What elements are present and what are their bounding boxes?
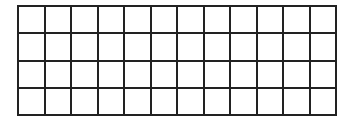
grid-cell	[125, 62, 152, 89]
grid-cell	[284, 7, 311, 34]
grid-cell	[46, 89, 73, 116]
grid-cell	[125, 89, 152, 116]
grid-cell	[258, 89, 285, 116]
grid-cell	[284, 89, 311, 116]
grid-cell	[152, 62, 179, 89]
grid-cell	[99, 7, 126, 34]
grid-cell	[125, 7, 152, 34]
grid-cell	[205, 34, 232, 61]
grid-cell	[258, 34, 285, 61]
grid-cell	[72, 62, 99, 89]
grid-cell	[152, 34, 179, 61]
grid-cell	[19, 34, 46, 61]
grid-cell	[46, 62, 73, 89]
grid-cell	[284, 62, 311, 89]
grid-cell	[46, 34, 73, 61]
grid-cell	[19, 62, 46, 89]
grid-cell	[284, 34, 311, 61]
grid-cell	[311, 62, 338, 89]
grid-cell	[205, 89, 232, 116]
grid-cell	[231, 34, 258, 61]
grid-cell	[178, 34, 205, 61]
grid-cell	[258, 62, 285, 89]
grid-cell	[46, 7, 73, 34]
grid-cell	[311, 34, 338, 61]
grid-cell	[311, 89, 338, 116]
grid-cell	[99, 34, 126, 61]
grid-cell	[99, 62, 126, 89]
grid-cell	[178, 89, 205, 116]
grid-cell	[152, 7, 179, 34]
grid-cell	[205, 62, 232, 89]
grid-cell	[152, 89, 179, 116]
grid-cell	[205, 7, 232, 34]
empty-grid	[17, 5, 337, 116]
grid-cell	[72, 89, 99, 116]
grid-cell	[19, 89, 46, 116]
grid-cell	[178, 62, 205, 89]
grid-cell	[125, 34, 152, 61]
grid-cell	[99, 89, 126, 116]
grid-cell	[178, 7, 205, 34]
grid-cell	[258, 7, 285, 34]
grid-cell	[72, 7, 99, 34]
grid-cell	[231, 62, 258, 89]
grid-cell	[72, 34, 99, 61]
grid-cell	[231, 7, 258, 34]
grid-cell	[231, 89, 258, 116]
grid-cell	[19, 7, 46, 34]
grid-cell	[311, 7, 338, 34]
